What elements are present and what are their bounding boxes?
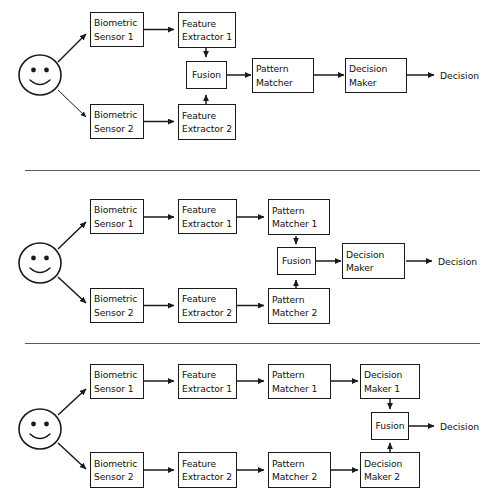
node-decision-maker-1-panel-3[interactable]: Decision Maker 1: [360, 364, 420, 399]
node-line-1: Pattern: [272, 204, 304, 217]
node-line-2: Sensor 2: [94, 122, 133, 135]
node-line-1: Biometric: [94, 108, 137, 121]
node-biometric-sensor-1-panel-3[interactable]: Biometric Sensor 1: [90, 364, 144, 399]
node-decision-maker-2-panel-3[interactable]: Decision Maker 2: [360, 452, 420, 488]
panel-divider-1: [25, 170, 480, 171]
node-pattern-matcher-1-panel-2[interactable]: Pattern Matcher 1: [268, 199, 330, 235]
node-line-1: Pattern: [272, 368, 304, 381]
node-line-1: Pattern: [272, 457, 304, 470]
node-line-2: Matcher 1: [272, 217, 317, 230]
node-line-2: Extractor 1: [182, 30, 232, 43]
node-line-2: Sensor 1: [94, 30, 133, 43]
user-face-icon-3: [17, 406, 63, 452]
node-decision-maker-panel-2[interactable]: Decision Maker: [342, 243, 405, 279]
node-line-2: Sensor 1: [94, 217, 133, 230]
node-line-2: Maker: [349, 76, 376, 89]
node-line-2: Maker 1: [364, 382, 400, 395]
node-line-1: Decision: [364, 368, 402, 381]
node-pattern-matcher-2-panel-3[interactable]: Pattern Matcher 2: [268, 452, 331, 488]
node-biometric-sensor-2-panel-2[interactable]: Biometric Sensor 2: [90, 288, 144, 323]
node-line-1: Biometric: [94, 368, 137, 381]
node-pattern-matcher-2-panel-2[interactable]: Pattern Matcher 2: [268, 288, 330, 324]
node-line-2: Matcher 2: [272, 306, 317, 319]
node-feature-extractor-1-panel-1[interactable]: Feature Extractor 1: [178, 12, 236, 48]
node-feature-extractor-2-panel-2[interactable]: Feature Extractor 2: [178, 288, 237, 323]
node-line-2: Sensor 2: [94, 306, 133, 319]
user-face-icon-1: [17, 52, 63, 98]
node-line-2: Maker 2: [364, 470, 400, 483]
node-line-1: Feature: [182, 203, 216, 216]
node-line-2: Sensor 1: [94, 382, 133, 395]
output-label-decision-panel-1: Decision: [440, 71, 479, 80]
node-line-1: Decision: [364, 457, 402, 470]
node-line-2: Extractor 2: [182, 306, 232, 319]
node-fusion-panel-1[interactable]: Fusion: [186, 61, 227, 89]
node-line-1: Biometric: [94, 203, 137, 216]
node-pattern-matcher-1-panel-3[interactable]: Pattern Matcher 1: [268, 364, 331, 399]
node-line-1: Biometric: [94, 292, 137, 305]
node-line-2: Sensor 2: [94, 470, 133, 483]
output-label-decision-panel-2: Decision: [438, 257, 477, 266]
output-label-decision-panel-3: Decision: [440, 422, 479, 431]
node-biometric-sensor-1-panel-1[interactable]: Biometric Sensor 1: [90, 12, 144, 47]
node-biometric-sensor-2-panel-3[interactable]: Biometric Sensor 2: [90, 452, 144, 488]
node-line-2: Extractor 2: [182, 470, 232, 483]
node-line-1: Feature: [182, 109, 216, 122]
node-feature-extractor-1-panel-3[interactable]: Feature Extractor 1: [178, 364, 237, 399]
node-label: Fusion: [376, 419, 405, 432]
node-fusion-panel-3[interactable]: Fusion: [371, 412, 409, 440]
node-line-1: Decision: [349, 62, 387, 75]
node-line-1: Decision: [346, 248, 384, 261]
node-feature-extractor-2-panel-1[interactable]: Feature Extractor 2: [178, 104, 236, 140]
node-feature-extractor-2-panel-3[interactable]: Feature Extractor 2: [178, 452, 237, 488]
node-line-1: Biometric: [94, 457, 137, 470]
node-feature-extractor-1-panel-2[interactable]: Feature Extractor 1: [178, 199, 237, 234]
node-line-2: Matcher 2: [272, 470, 317, 483]
node-decision-maker-panel-1[interactable]: Decision Maker: [345, 58, 407, 93]
node-line-1: Pattern: [272, 293, 304, 306]
node-biometric-sensor-1-panel-2[interactable]: Biometric Sensor 1: [90, 199, 144, 234]
node-line-1: Biometric: [94, 16, 137, 29]
node-line-2: Matcher 1: [272, 382, 317, 395]
node-line-1: Feature: [182, 457, 216, 470]
node-fusion-panel-2[interactable]: Fusion: [277, 247, 316, 275]
node-line-1: Feature: [182, 17, 216, 30]
diagram-canvas: Biometric Sensor 1 Feature Extractor 1 B…: [0, 0, 500, 496]
node-label: Fusion: [192, 68, 221, 81]
node-line-2: Extractor 1: [182, 382, 232, 395]
connector-layer: [0, 0, 500, 496]
node-line-1: Feature: [182, 292, 216, 305]
panel-divider-2: [25, 343, 480, 344]
node-line-2: Maker: [346, 261, 373, 274]
node-label: Fusion: [282, 254, 311, 267]
node-line-2: Matcher: [256, 76, 293, 89]
node-line-1: Feature: [182, 368, 216, 381]
node-line-1: Pattern: [256, 62, 288, 75]
node-line-2: Extractor 2: [182, 122, 232, 135]
node-biometric-sensor-2-panel-1[interactable]: Biometric Sensor 2: [90, 104, 144, 139]
node-line-2: Extractor 1: [182, 217, 232, 230]
node-pattern-matcher-panel-1[interactable]: Pattern Matcher: [252, 58, 314, 93]
user-face-icon-2: [17, 240, 63, 286]
